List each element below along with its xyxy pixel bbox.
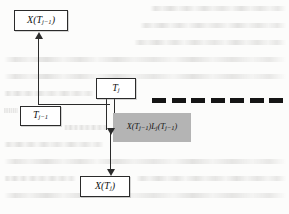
node-t-j: Tj: [96, 78, 136, 99]
bleed-line: [4, 176, 76, 181]
arrowhead-up-icon: [35, 32, 43, 39]
arrowhead-down-icon: [107, 169, 115, 176]
bleed-line: [64, 125, 108, 130]
diagram-canvas: X(Tj−1) Tj−1 Tj X(Tj−1)Lj(Tj−1) X(Tj): [0, 0, 289, 214]
dashed-rule: [152, 98, 283, 103]
bleed-line: [150, 6, 286, 11]
dash-segment: [211, 98, 225, 103]
dash-segment: [250, 98, 264, 103]
dash-segment: [230, 98, 244, 103]
node-x-t-j-label: X(Tj): [95, 181, 115, 192]
connector-expression-to-x-j: [110, 131, 111, 173]
node-x-t-j: X(Tj): [80, 176, 130, 197]
node-t-prev-label: Tj−1: [33, 110, 48, 121]
node-x-t-prev: X(Tj−1): [14, 10, 68, 31]
dash-segment: [172, 98, 186, 103]
bleed-line: [4, 74, 286, 79]
connector-t-prev-to-x-prev: [38, 37, 39, 105]
dash-segment: [269, 98, 283, 103]
node-t-prev: Tj−1: [20, 106, 61, 126]
node-t-j-label: Tj: [112, 83, 119, 94]
dash-segment: [191, 98, 205, 103]
bleed-line: [140, 23, 286, 28]
bleed-line: [4, 57, 286, 62]
bleed-line: [4, 142, 104, 147]
dash-segment: [152, 98, 166, 103]
bleed-line: [4, 108, 18, 113]
bleed-line: [136, 176, 286, 181]
bleed-line: [4, 193, 286, 198]
node-x-t-prev-label: X(Tj−1): [27, 15, 55, 26]
expression-label: X(Tj−1)Lj(Tj−1): [127, 123, 178, 132]
bleed-line: [134, 40, 286, 45]
bleed-line: [4, 159, 286, 164]
arrowhead-down-icon: [107, 128, 115, 135]
bleed-line: [4, 91, 94, 96]
expression-box: X(Tj−1)Lj(Tj−1): [113, 113, 191, 142]
